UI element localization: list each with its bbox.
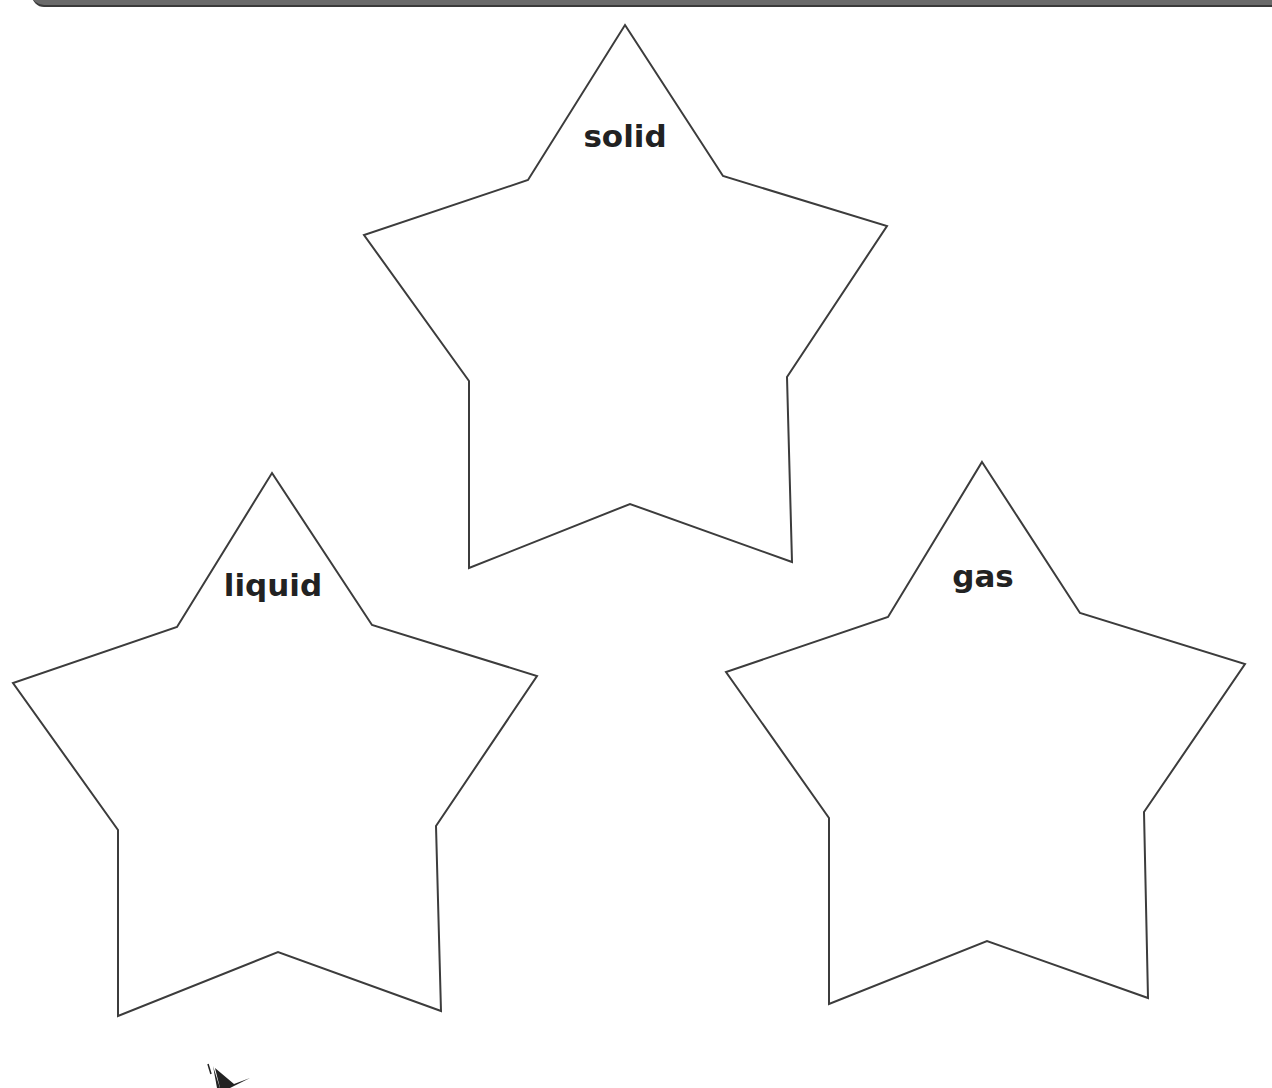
solid-star-shape bbox=[364, 25, 887, 568]
liquid-star-label: liquid bbox=[224, 567, 322, 603]
solid-star-label: solid bbox=[583, 118, 666, 154]
gas-star-shape bbox=[726, 462, 1245, 1004]
liquid-star-shape bbox=[13, 473, 537, 1016]
partial-star-icon bbox=[200, 1062, 270, 1088]
gas-star-label: gas bbox=[952, 558, 1014, 594]
